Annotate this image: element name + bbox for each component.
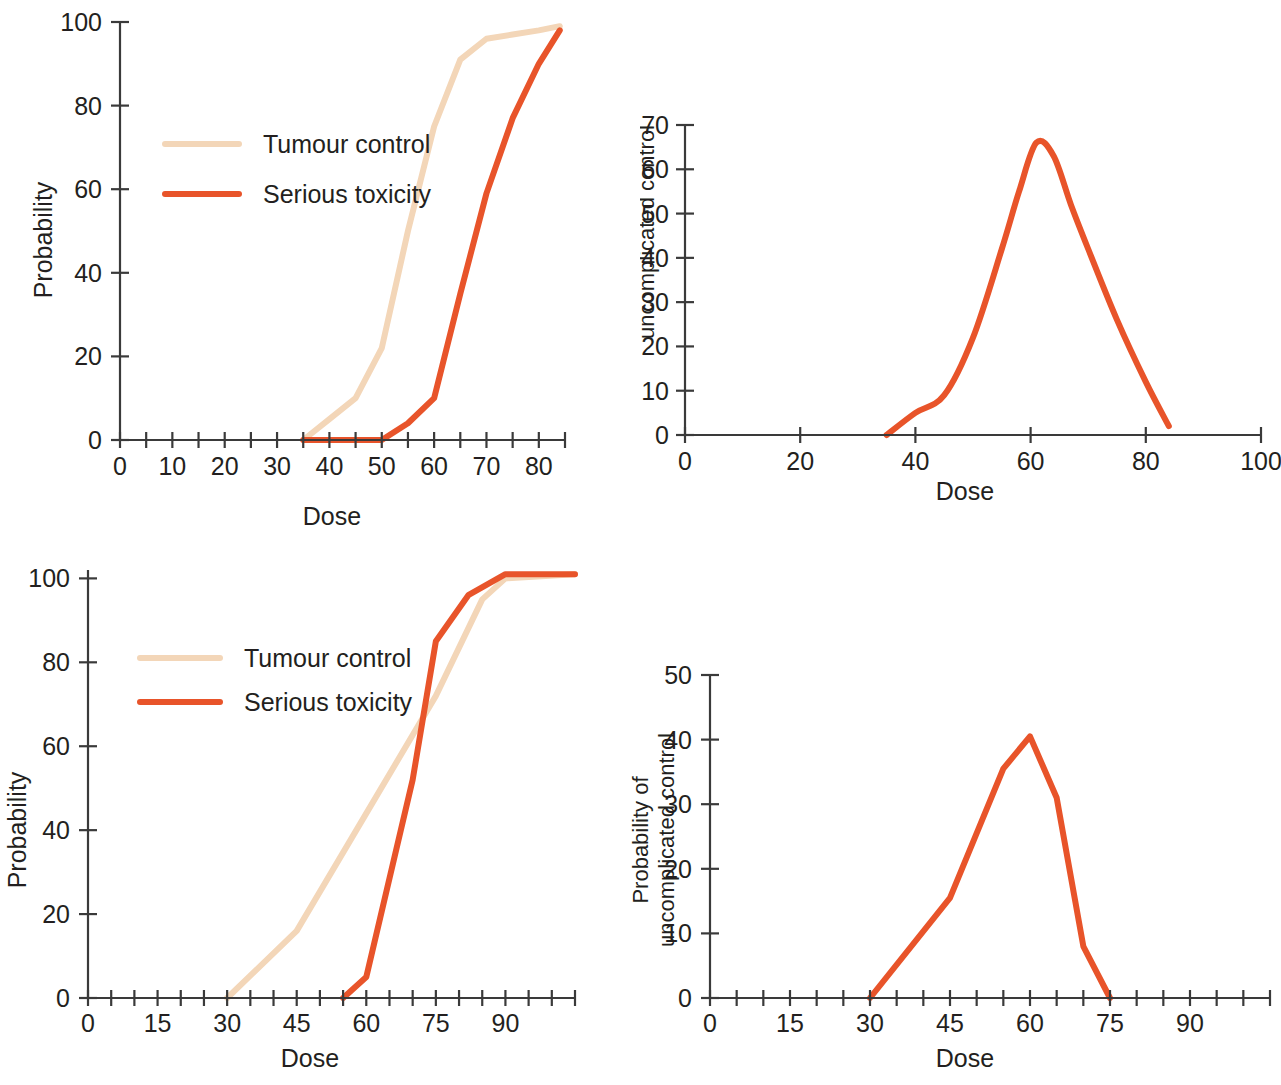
y-axis-tick-label: 100 <box>60 8 102 36</box>
legend-label-tumour-control: Tumour control <box>244 644 411 672</box>
x-axis-tick-label: 15 <box>144 1009 172 1037</box>
axes-group-top-left: 01020304050607080020406080100 <box>60 8 565 480</box>
y-axis-title: Probability <box>3 771 31 888</box>
axes-group-top-right: 020406080100010203040506070 <box>641 111 1281 475</box>
x-axis-tick-label: 90 <box>1176 1009 1204 1037</box>
y-axis-tick-label: 60 <box>74 175 102 203</box>
series-line-a <box>887 141 1169 435</box>
x-axis-tick-label: 0 <box>81 1009 95 1037</box>
x-axis-tick-label: 20 <box>211 452 239 480</box>
chart-panel-top-left: 01020304050607080020406080100 Tumour con… <box>0 0 640 540</box>
x-axis-tick-label: 75 <box>1096 1009 1124 1037</box>
y-axis-tick-label: 0 <box>56 984 70 1012</box>
x-axis-tick-label: 90 <box>492 1009 520 1037</box>
y-axis-tick-label: 0 <box>678 984 692 1012</box>
x-axis-tick-label: 60 <box>352 1009 380 1037</box>
y-axis-tick-label: 60 <box>42 732 70 760</box>
x-axis-tick-label: 0 <box>703 1009 717 1037</box>
series-line-a <box>303 26 560 440</box>
legend-bottom-left: Tumour controlSerious toxicity <box>140 644 413 716</box>
series-group-top-right <box>887 141 1169 435</box>
legend-label-serious-toxicity: Serious toxicity <box>263 180 432 208</box>
x-axis-tick-label: 60 <box>1016 1009 1044 1037</box>
x-axis-title: Dose <box>936 477 994 505</box>
y-axis-tick-label: 80 <box>42 648 70 676</box>
figure-container: 01020304050607080020406080100 Tumour con… <box>0 0 1281 1085</box>
x-axis-tick-label: 40 <box>901 447 929 475</box>
legend-label-tumour-control: Tumour control <box>263 130 430 158</box>
y-axis-title: Probability <box>29 181 57 298</box>
y-axis-title-line2: uncomplicated control <box>654 733 679 947</box>
y-axis-tick-label: 0 <box>655 421 669 449</box>
x-axis-tick-label: 80 <box>1132 447 1160 475</box>
legend-top-left: Tumour controlSerious toxicity <box>165 130 432 208</box>
axes-group-bottom-left: 0153045607590020406080100 <box>28 564 575 1037</box>
x-axis-tick-label: 20 <box>786 447 814 475</box>
chart-panel-bottom-right: 015304560759001020304050 Dose Probabilit… <box>620 540 1281 1085</box>
y-axis-tick-label: 20 <box>42 900 70 928</box>
chart-svg-top-right: 020406080100010203040506070 Dose Probabi… <box>640 0 1281 540</box>
y-axis-tick-label: 50 <box>664 661 692 689</box>
x-axis-tick-label: 45 <box>283 1009 311 1037</box>
x-axis-tick-label: 15 <box>776 1009 804 1037</box>
x-axis-tick-label: 100 <box>1240 447 1281 475</box>
y-axis-tick-label: 80 <box>74 92 102 120</box>
legend-label-serious-toxicity: Serious toxicity <box>244 688 413 716</box>
y-axis-tick-label: 40 <box>42 816 70 844</box>
x-axis-tick-label: 10 <box>158 452 186 480</box>
y-axis-tick-label: 40 <box>74 259 102 287</box>
y-axis-tick-label: 0 <box>88 426 102 454</box>
x-axis-tick-label: 70 <box>473 452 501 480</box>
series-group-top-left <box>303 26 560 440</box>
chart-svg-bottom-right: 015304560759001020304050 Dose Probabilit… <box>620 540 1281 1085</box>
series-line-a <box>870 736 1110 998</box>
y-axis-tick-label: 20 <box>74 342 102 370</box>
x-axis-tick-label: 60 <box>420 452 448 480</box>
series-group-bottom-right <box>870 736 1110 998</box>
series-line-b <box>303 30 560 440</box>
x-axis-title: Dose <box>281 1044 339 1072</box>
y-axis-title-line1: Probability of <box>628 776 653 904</box>
x-axis-tick-label: 60 <box>1017 447 1045 475</box>
x-axis-tick-label: 0 <box>678 447 692 475</box>
chart-panel-top-right: 020406080100010203040506070 Dose Probabi… <box>640 0 1281 540</box>
chart-svg-bottom-left: 0153045607590020406080100 Tumour control… <box>0 540 620 1085</box>
x-axis-tick-label: 75 <box>422 1009 450 1037</box>
x-axis-title: Dose <box>936 1044 994 1072</box>
chart-panel-bottom-left: 0153045607590020406080100 Tumour control… <box>0 540 620 1085</box>
x-axis-title: Dose <box>303 502 361 530</box>
x-axis-tick-label: 50 <box>368 452 396 480</box>
y-axis-tick-label: 10 <box>641 377 669 405</box>
y-axis-tick-label: 100 <box>28 564 70 592</box>
series-group-bottom-left <box>227 574 575 998</box>
y-axis-title-line2: uncomplicated control <box>640 125 659 339</box>
x-axis-tick-label: 40 <box>316 452 344 480</box>
x-axis-tick-label: 80 <box>525 452 553 480</box>
x-axis-tick-label: 30 <box>263 452 291 480</box>
series-line-a <box>227 574 575 998</box>
x-axis-tick-label: 30 <box>213 1009 241 1037</box>
chart-svg-top-left: 01020304050607080020406080100 Tumour con… <box>0 0 640 540</box>
x-axis-tick-label: 30 <box>856 1009 884 1037</box>
x-axis-tick-label: 0 <box>113 452 127 480</box>
series-line-b <box>343 574 575 998</box>
x-axis-tick-label: 45 <box>936 1009 964 1037</box>
